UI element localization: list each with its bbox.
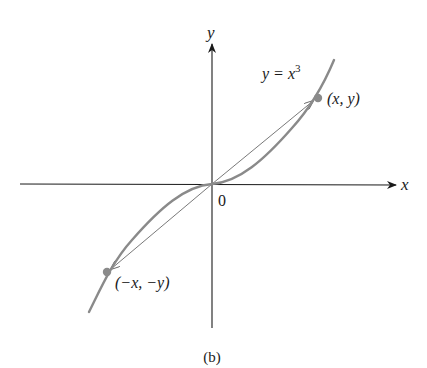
point-x-y-label: (x, y) xyxy=(327,90,360,108)
figure-caption: (b) xyxy=(203,349,221,366)
x-axis-label: x xyxy=(400,175,409,194)
point-neg-x-neg-y xyxy=(103,268,111,276)
diagram-canvas: y x 0 y = x3 (x, y) (−x, −y) (b) xyxy=(0,0,427,368)
equation-exponent: 3 xyxy=(295,62,301,74)
y-axis-label: y xyxy=(205,23,215,42)
point-neg-x-neg-y-label: (−x, −y) xyxy=(115,274,169,292)
curve-equation-label: y = x3 xyxy=(260,62,301,83)
origin-label: 0 xyxy=(218,192,226,209)
vector-to-neg-x-neg-y xyxy=(111,184,212,269)
vector-to-x-y xyxy=(212,101,313,184)
point-x-y xyxy=(314,94,322,102)
equation-text: y = x xyxy=(260,65,295,83)
